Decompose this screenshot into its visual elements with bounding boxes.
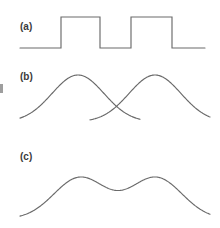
panel-c-gaussian-sum-curve [20, 177, 210, 216]
panel-b-gaussian-left-curve [20, 75, 140, 119]
figure-container: (a) (b) (c) [0, 0, 220, 228]
panel-a-square-wave-curve [20, 17, 205, 48]
figure-svg-canvas [0, 0, 220, 228]
